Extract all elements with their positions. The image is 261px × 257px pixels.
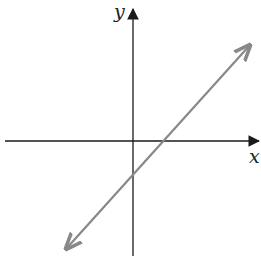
- graphed-line: [66, 45, 250, 249]
- y-axis-label: y: [114, 2, 125, 21]
- x-axis-label: x: [249, 147, 260, 166]
- graph-svg: [0, 0, 261, 257]
- coordinate-plane: y x: [0, 0, 261, 257]
